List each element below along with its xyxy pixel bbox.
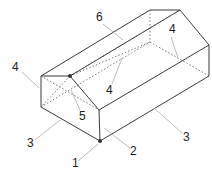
label-3-right: 3 <box>183 130 190 144</box>
label-4-middle: 4 <box>106 83 113 97</box>
ridge-node <box>68 74 72 78</box>
label-4-right: 4 <box>169 22 176 36</box>
base-node <box>98 139 102 143</box>
visible-edges <box>41 10 209 141</box>
leader-lines <box>22 24 182 161</box>
label-5: 5 <box>79 109 86 123</box>
label-2: 2 <box>130 144 137 158</box>
gable-block-diagram: 1 2 3 3 4 4 4 5 6 <box>0 0 212 171</box>
label-1: 1 <box>72 156 79 170</box>
label-6: 6 <box>96 10 103 24</box>
label-3-left: 3 <box>27 136 34 150</box>
label-4-left: 4 <box>12 60 19 74</box>
